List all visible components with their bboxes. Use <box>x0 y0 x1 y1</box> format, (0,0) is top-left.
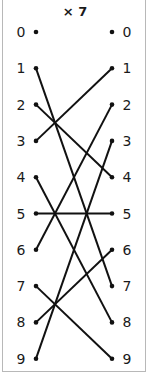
right-dot-1 <box>110 66 115 71</box>
mapping-line-6-to-2 <box>36 105 112 250</box>
left-dot-6 <box>34 248 39 253</box>
mapping-line-3-to-1 <box>36 68 112 141</box>
left-dot-8 <box>34 320 39 325</box>
right-dot-3 <box>110 139 115 144</box>
left-dot-1 <box>34 66 39 71</box>
left-dot-0 <box>34 30 39 35</box>
mapping-line-2-to-4 <box>36 105 112 178</box>
right-dot-6 <box>110 248 115 253</box>
right-dot-8 <box>110 320 115 325</box>
mapping-line-8-to-6 <box>36 250 112 323</box>
mapping-lines <box>0 0 150 375</box>
left-dot-2 <box>34 102 39 107</box>
right-dot-5 <box>110 211 115 216</box>
left-dot-5 <box>34 211 39 216</box>
right-dot-0 <box>110 30 115 35</box>
mapping-line-7-to-9 <box>36 286 112 359</box>
mapping-line-9-to-3 <box>36 141 112 359</box>
right-dot-9 <box>110 356 115 361</box>
right-dot-2 <box>110 102 115 107</box>
left-dot-4 <box>34 175 39 180</box>
left-dot-7 <box>34 284 39 289</box>
right-dot-7 <box>110 284 115 289</box>
right-dot-4 <box>110 175 115 180</box>
left-dot-9 <box>34 356 39 361</box>
left-dot-3 <box>34 139 39 144</box>
